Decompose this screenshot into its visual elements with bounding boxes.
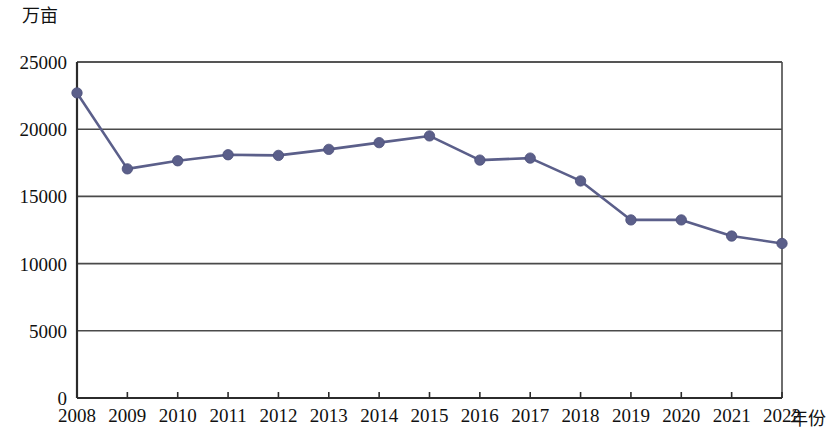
- data-point: [525, 153, 535, 163]
- data-point: [324, 144, 334, 154]
- x-tick-label: 2018: [562, 405, 600, 426]
- x-tick-label: 2015: [411, 405, 449, 426]
- x-tick-label: 2020: [662, 405, 700, 426]
- data-point: [374, 137, 384, 147]
- x-tick-label: 2011: [209, 405, 246, 426]
- x-tick-label: 2010: [159, 405, 197, 426]
- data-point: [122, 164, 132, 174]
- chart-background: [0, 0, 828, 430]
- x-tick-label: 2009: [108, 405, 146, 426]
- y-tick-label: 5000: [29, 321, 67, 342]
- x-tick-label: 2012: [259, 405, 297, 426]
- data-point: [424, 131, 434, 141]
- y-axis-title: 万亩: [22, 6, 58, 26]
- line-chart: 万亩 0500010000150002000025000 20082009201…: [0, 0, 828, 430]
- x-tick-label: 2019: [612, 405, 650, 426]
- x-tick-label: 2021: [713, 405, 751, 426]
- y-tick-label: 20000: [20, 119, 68, 140]
- y-tick-label: 10000: [20, 254, 68, 275]
- data-point: [676, 215, 686, 225]
- x-tick-label: 2016: [461, 405, 499, 426]
- data-point: [223, 150, 233, 160]
- x-tick-label: 2008: [58, 405, 96, 426]
- chart-canvas: 万亩 0500010000150002000025000 20082009201…: [0, 0, 828, 430]
- x-tick-label: 2017: [511, 405, 549, 426]
- data-point: [777, 238, 787, 248]
- y-tick-label: 15000: [20, 186, 68, 207]
- data-point: [626, 215, 636, 225]
- x-axis-title: 年份: [790, 409, 826, 429]
- data-point: [475, 155, 485, 165]
- data-point: [575, 176, 585, 186]
- data-point: [72, 88, 82, 98]
- x-tick-label: 2014: [360, 405, 399, 426]
- data-point: [726, 231, 736, 241]
- data-point: [273, 150, 283, 160]
- x-tick-label: 2013: [310, 405, 348, 426]
- data-point: [173, 156, 183, 166]
- y-tick-label: 25000: [20, 52, 68, 73]
